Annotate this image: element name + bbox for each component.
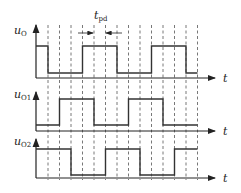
svg-text:tpd: tpd bbox=[94, 9, 108, 23]
signal-uo2: uO2 t bbox=[14, 135, 228, 185]
svg-text:uO1: uO1 bbox=[14, 88, 31, 102]
signal-uo1: uO1 t bbox=[14, 88, 228, 138]
svg-text:t: t bbox=[223, 172, 228, 185]
svg-text:uO2: uO2 bbox=[14, 135, 31, 149]
svg-text:uO: uO bbox=[14, 24, 27, 38]
tpd-annotation: tpd bbox=[78, 9, 122, 33]
svg-text:t: t bbox=[223, 72, 228, 85]
timing-diagram: uO t tpd uO1 t uO2 t bbox=[0, 0, 241, 193]
svg-text:t: t bbox=[223, 125, 228, 138]
